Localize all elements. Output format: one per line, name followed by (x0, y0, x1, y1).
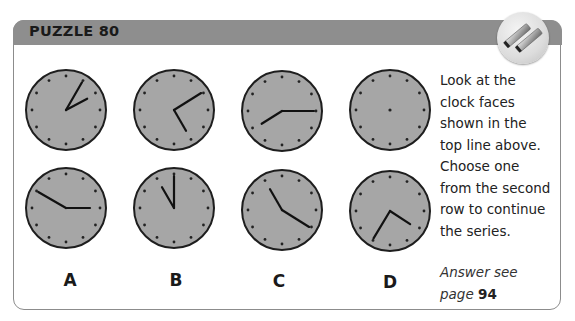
hour-marker-dot (247, 209, 250, 212)
hour-marker-dot (264, 238, 267, 241)
hour-marker-dot (359, 92, 362, 95)
hour-marker-dot (418, 92, 421, 95)
option-clock-a[interactable] (24, 166, 108, 250)
option-label-a[interactable]: A (55, 270, 85, 290)
hour-marker-dot (406, 180, 409, 183)
hour-marker-dot (202, 126, 205, 129)
hour-marker-dot (143, 224, 146, 227)
hour-marker-dot (82, 236, 85, 239)
hour-marker-dot (406, 239, 409, 242)
hour-marker-dot (372, 239, 375, 242)
hour-marker-dot (264, 139, 267, 142)
hour-marker-dot (264, 179, 267, 182)
sequence-clock-2 (132, 68, 216, 152)
hour-marker-dot (372, 138, 375, 141)
hour-marker-dot (173, 143, 176, 146)
hour-marker-dot (310, 192, 313, 195)
hour-marker-dot (298, 238, 301, 241)
hour-marker-dot (139, 207, 142, 210)
hour-marker-dot (389, 75, 392, 78)
instruction-line: row to continue (440, 199, 558, 221)
hour-marker-dot (359, 193, 362, 196)
instruction-line: Look at the (440, 70, 558, 92)
hour-marker-dot (310, 226, 313, 229)
hour-marker-dot (372, 180, 375, 183)
hour-marker-dot (99, 207, 102, 210)
hour-marker-dot (251, 93, 254, 96)
option-label-d[interactable]: D (375, 272, 405, 292)
hour-marker-dot (139, 109, 142, 112)
hour-marker-dot (406, 138, 409, 141)
hour-marker-dot (94, 190, 97, 193)
hour-marker-dot (389, 244, 392, 247)
hour-marker-dot (143, 92, 146, 95)
instruction-line: from the second (440, 178, 558, 200)
hour-marker-dot (418, 227, 421, 230)
hour-marker-dot (389, 143, 392, 146)
sequence-clock-1 (24, 68, 108, 152)
hour-marker-dot (48, 177, 51, 180)
hour-marker-dot (298, 179, 301, 182)
answer-reference: Answer see page 94 (440, 262, 558, 305)
hour-marker-dot (65, 143, 68, 146)
option-clock-c[interactable] (240, 168, 324, 252)
hour-marker-dot (173, 75, 176, 78)
hour-marker-dot (190, 138, 193, 141)
hour-marker-dot (372, 79, 375, 82)
instruction-line: the series. (440, 221, 558, 243)
hour-marker-dot (281, 76, 284, 79)
hour-marker-dot (190, 236, 193, 239)
option-label-b[interactable]: B (161, 270, 191, 290)
hour-marker-dot (264, 80, 267, 83)
hour-marker-dot (156, 138, 159, 141)
hour-marker-dot (247, 110, 250, 113)
hour-marker-dot (35, 126, 38, 129)
hour-marker-dot (418, 193, 421, 196)
hour-marker-dot (298, 139, 301, 142)
hour-marker-dot (202, 92, 205, 95)
hour-marker-dot (143, 126, 146, 129)
hour-marker-dot (310, 93, 313, 96)
hour-marker-dot (82, 138, 85, 141)
hour-marker-dot (48, 138, 51, 141)
hour-marker-dot (359, 126, 362, 129)
answer-line-2: page 94 (440, 284, 558, 306)
option-clock-d[interactable] (348, 169, 432, 253)
sequence-clock-3 (240, 69, 324, 153)
hour-marker-dot (202, 224, 205, 227)
parallel-bars-icon (497, 12, 549, 64)
hour-marker-dot (310, 127, 313, 130)
answer-line-1: Answer see (440, 262, 558, 284)
hour-marker-dot (406, 79, 409, 82)
hour-marker-dot (207, 109, 210, 112)
hour-marker-dot (35, 224, 38, 227)
hour-marker-dot (65, 241, 68, 244)
hour-marker-dot (31, 207, 34, 210)
hour-marker-dot (173, 241, 176, 244)
hour-marker-dot (207, 207, 210, 210)
hour-marker-dot (355, 109, 358, 112)
hour-marker-dot (190, 79, 193, 82)
option-label-c[interactable]: C (264, 271, 294, 291)
hour-marker-dot (281, 144, 284, 147)
hour-marker-dot (281, 243, 284, 246)
hour-marker-dot (281, 175, 284, 178)
hour-marker-dot (99, 109, 102, 112)
hour-marker-dot (251, 226, 254, 229)
instruction-line: top line above. (440, 135, 558, 157)
clock-grid: A B C D (0, 0, 440, 321)
answer-page-prefix: page (440, 286, 478, 302)
hour-marker-dot (94, 92, 97, 95)
sequence-clock-4-blank (348, 68, 432, 152)
instruction-line: Choose one (440, 156, 558, 178)
hour-marker-dot (143, 190, 146, 193)
option-clock-b[interactable] (132, 166, 216, 250)
hour-marker-dot (190, 177, 193, 180)
hour-marker-dot (35, 92, 38, 95)
answer-page-number: 94 (478, 286, 497, 302)
hour-marker-dot (418, 126, 421, 129)
instructions-text: Look at the clock faces shown in the top… (440, 70, 558, 242)
hour-marker-dot (355, 210, 358, 213)
hour-marker-dot (31, 109, 34, 112)
hour-marker-dot (423, 210, 426, 213)
